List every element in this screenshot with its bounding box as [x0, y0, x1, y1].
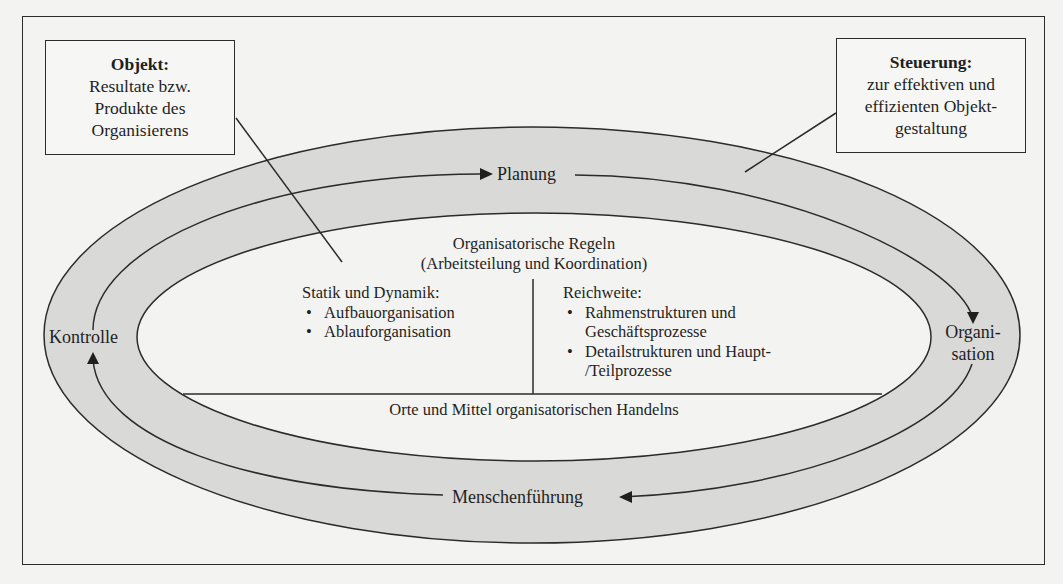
objekt-line: Organisierens	[46, 119, 234, 141]
reichweite-list: Rahmenstrukturen und Geschäftsprozesse D…	[563, 303, 863, 381]
objekt-box: Objekt: Resultate bzw. Produkte des Orga…	[45, 40, 235, 155]
reichweite-block: Reichweite: Rahmenstrukturen und Geschäf…	[563, 283, 863, 381]
orte-text: Orte und Mittel organisatorischen Handel…	[334, 400, 734, 420]
label-organisation-line2: sation	[938, 343, 1008, 365]
list-item: Rahmenstrukturen und Geschäftsprozesse	[563, 303, 863, 342]
list-item-line: Detailstrukturen und Haupt-	[585, 342, 863, 362]
label-planung: Planung	[497, 163, 556, 185]
label-organisation-line1: Organi-	[938, 321, 1008, 343]
objekt-line: Resultate bzw.	[46, 75, 234, 97]
label-kontrolle: Kontrolle	[49, 326, 118, 348]
statik-heading: Statik und Dynamik:	[302, 283, 522, 303]
objekt-title: Objekt:	[46, 53, 234, 75]
statik-block: Statik und Dynamik: Aufbauorganisation A…	[302, 283, 522, 342]
steuerung-box: Steuerung: zur effektiven und effiziente…	[836, 38, 1026, 153]
steuerung-title: Steuerung:	[837, 51, 1025, 73]
rules-line1: Organisatorische Regeln	[334, 234, 734, 254]
list-item: Detailstrukturen und Haupt- /Teilprozess…	[563, 342, 863, 381]
statik-list: Aufbauorganisation Ablauforganisation	[302, 303, 522, 342]
steuerung-line: gestaltung	[837, 117, 1025, 139]
list-item-line: Geschäftsprozesse	[585, 322, 863, 342]
label-menschenfuehrung: Menschenführung	[452, 486, 583, 508]
rules-heading: Organisatorische Regeln (Arbeitsteilung …	[334, 234, 734, 274]
objekt-line: Produkte des	[46, 97, 234, 119]
list-item: Ablauforganisation	[302, 322, 522, 342]
reichweite-heading: Reichweite:	[563, 283, 863, 303]
list-item-line: /Teilprozesse	[585, 361, 863, 381]
list-item-line: Rahmenstrukturen und	[585, 303, 863, 323]
label-organisation: Organi- sation	[938, 321, 1008, 365]
list-item: Aufbauorganisation	[302, 303, 522, 323]
steuerung-line: effizienten Objekt-	[837, 95, 1025, 117]
rules-line2: (Arbeitsteilung und Koordination)	[334, 254, 734, 274]
steuerung-line: zur effektiven und	[837, 73, 1025, 95]
